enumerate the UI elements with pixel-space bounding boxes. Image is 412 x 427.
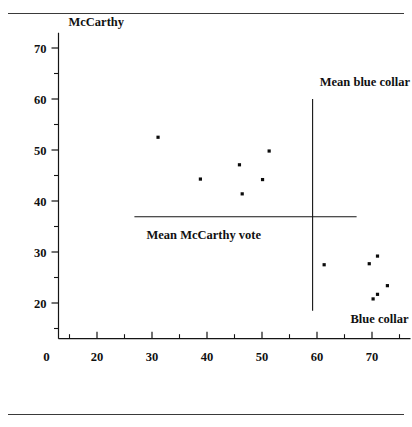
annotation-label-mean-blue-collar: Mean blue collar — [320, 75, 411, 89]
x-axis-title: Blue collar — [351, 312, 409, 326]
data-point — [156, 136, 159, 139]
data-point — [323, 263, 326, 266]
data-point — [261, 178, 264, 181]
reference-lines — [134, 99, 356, 311]
data-point — [268, 149, 271, 152]
y-tick-label: 70 — [34, 42, 47, 56]
data-point — [376, 293, 379, 296]
x-tick-label: 40 — [201, 350, 214, 364]
x-tick-label: 50 — [256, 350, 269, 364]
x-tick-label: 60 — [311, 350, 324, 364]
y-axis-title: McCarthy — [69, 15, 125, 29]
data-point — [376, 254, 379, 257]
origin-label: 0 — [43, 349, 50, 364]
data-point — [241, 192, 244, 195]
x-axis-minor-ticks — [70, 334, 400, 339]
data-point — [368, 262, 371, 265]
data-point — [199, 177, 202, 180]
x-axis-tick-labels: 203040506070 — [91, 350, 379, 364]
y-tick-label: 50 — [34, 144, 47, 158]
y-tick-label: 20 — [34, 297, 47, 311]
y-tick-label: 40 — [34, 195, 47, 209]
x-tick-label: 20 — [91, 350, 104, 364]
y-tick-label: 60 — [34, 93, 47, 107]
data-point — [386, 284, 389, 287]
data-points-group — [156, 136, 389, 301]
x-tick-label: 30 — [146, 350, 159, 364]
annotation-label-mean-mccarthy-vote: Mean McCarthy vote — [147, 228, 262, 242]
x-tick-label: 70 — [366, 350, 379, 364]
data-point — [372, 297, 375, 300]
figure-container: 203040506070 203040506070 Mean blue coll… — [0, 0, 412, 427]
y-tick-label: 30 — [34, 246, 47, 260]
y-axis-tick-labels: 203040506070 — [34, 42, 47, 311]
data-point — [238, 163, 241, 166]
scatter-plot: 203040506070 203040506070 Mean blue coll… — [0, 0, 412, 427]
